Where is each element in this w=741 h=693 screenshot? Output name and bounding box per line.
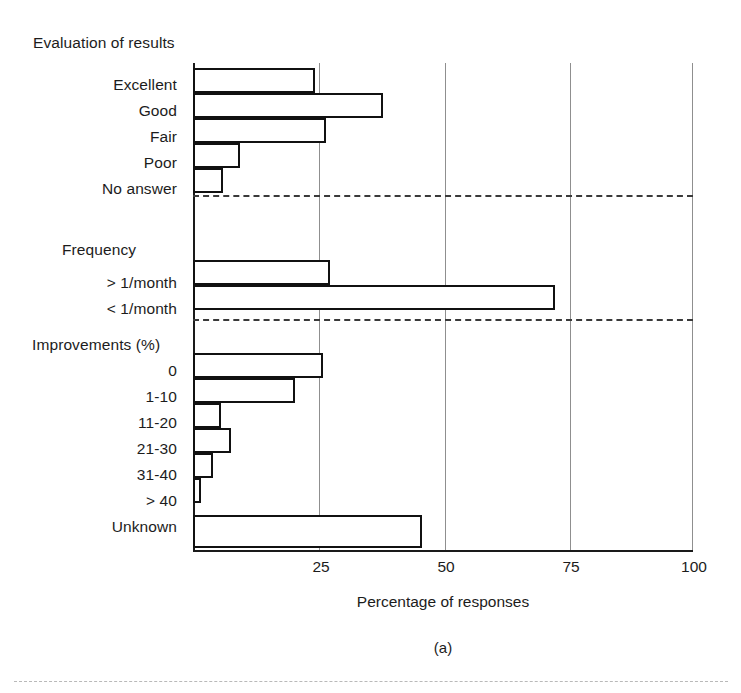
bar-lt-1-month [193, 285, 555, 310]
section-heading-improvements: Improvements (%) [32, 336, 160, 354]
bar-improvements-21-30 [193, 428, 231, 453]
category-label-11-20: 11-20 [0, 414, 177, 432]
category-label-poor: Poor [0, 154, 177, 172]
bar-gt-1-month [193, 260, 330, 285]
bar-fair [193, 118, 326, 143]
category-label-gt-40: > 40 [0, 492, 177, 510]
x-tick-label-25: 25 [296, 558, 346, 576]
category-label-no-answer: No answer [0, 180, 177, 198]
gridline-75 [570, 63, 571, 550]
x-axis-line [193, 550, 693, 552]
section-divider-1 [193, 195, 693, 197]
figure-container: Evaluation of results Excellent Good Fai… [0, 0, 741, 693]
section-heading-evaluation: Evaluation of results [33, 34, 175, 52]
bar-no-answer [193, 168, 223, 193]
bar-improvements-gt-40 [193, 478, 201, 503]
category-label-31-40: 31-40 [0, 466, 177, 484]
category-label-excellent: Excellent [0, 76, 177, 94]
bar-improvements-unknown [193, 515, 422, 548]
x-tick-label-75: 75 [546, 558, 596, 576]
category-label-fair: Fair [0, 128, 177, 146]
bar-improvements-1-10 [193, 378, 295, 403]
bar-good [193, 93, 383, 118]
section-divider-2 [193, 319, 693, 321]
gridline-100 [692, 63, 693, 550]
x-axis-title: Percentage of responses [193, 593, 693, 611]
category-label-0: 0 [0, 362, 177, 380]
x-tick-label-100: 100 [666, 558, 722, 576]
bar-improvements-0 [193, 353, 323, 378]
page-edge-artifact [14, 681, 728, 682]
plot-area [193, 63, 693, 550]
category-label-21-30: 21-30 [0, 440, 177, 458]
bar-improvements-31-40 [193, 453, 213, 478]
x-tick-label-50: 50 [421, 558, 471, 576]
section-heading-frequency: Frequency [62, 241, 136, 259]
category-label-unknown: Unknown [0, 518, 177, 536]
bar-excellent [193, 68, 315, 93]
category-label-gt-1-month: > 1/month [0, 274, 177, 292]
category-label-1-10: 1-10 [0, 388, 177, 406]
category-label-good: Good [0, 102, 177, 120]
bar-poor [193, 143, 240, 168]
figure-caption: (a) [193, 639, 693, 656]
bar-improvements-11-20 [193, 403, 221, 428]
category-label-lt-1-month: < 1/month [0, 300, 177, 318]
